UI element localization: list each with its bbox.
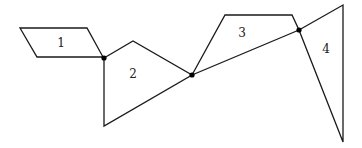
vertex-dot bbox=[296, 27, 301, 32]
region-4-label: 4 bbox=[322, 42, 330, 56]
region-2-polygon bbox=[104, 41, 192, 126]
region-3-label: 3 bbox=[238, 26, 246, 40]
region-1-label: 1 bbox=[57, 36, 65, 50]
vertex-dot bbox=[189, 72, 194, 77]
vertex-dot bbox=[101, 55, 106, 60]
polygon-diagram: 1234 bbox=[0, 0, 362, 148]
region-3-polygon bbox=[192, 15, 299, 75]
regions bbox=[20, 5, 343, 142]
region-2-label: 2 bbox=[129, 67, 137, 81]
region-4-polygon bbox=[299, 5, 343, 142]
